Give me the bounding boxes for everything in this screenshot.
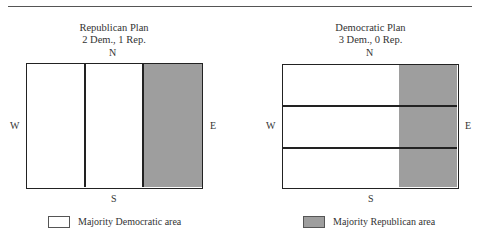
district-3-republican <box>143 64 202 187</box>
democratic-legend-label: Majority Democratic area <box>78 216 181 228</box>
compass-west: W <box>10 120 19 132</box>
compass-east: E <box>465 120 471 132</box>
district-boundary <box>84 64 86 187</box>
republican-area <box>399 65 457 187</box>
democratic-swatch <box>48 216 70 228</box>
plan-subtitle: 3 Dem., 0 Rep. <box>282 34 459 46</box>
republican-swatch <box>303 216 325 228</box>
state-map <box>26 63 203 189</box>
plan-title: Republican Plan 2 Dem., 1 Rep. <box>26 22 202 46</box>
district-boundary <box>283 105 457 107</box>
plan-title-text: Republican Plan <box>26 22 202 34</box>
plan-title-text: Democratic Plan <box>282 22 459 34</box>
compass-north: N <box>366 47 373 59</box>
plan-subtitle: 2 Dem., 1 Rep. <box>26 34 202 46</box>
republican-legend-label: Majority Republican area <box>333 216 435 228</box>
compass-west: W <box>266 120 275 132</box>
state-map <box>282 64 459 189</box>
district-boundary <box>142 64 144 187</box>
compass-south: S <box>111 193 117 205</box>
compass-north: N <box>109 47 116 59</box>
plan-title: Democratic Plan 3 Dem., 0 Rep. <box>282 22 459 46</box>
compass-east: E <box>210 120 216 132</box>
compass-south: S <box>368 193 374 205</box>
district-boundary <box>283 147 457 149</box>
top-rule <box>8 6 472 7</box>
